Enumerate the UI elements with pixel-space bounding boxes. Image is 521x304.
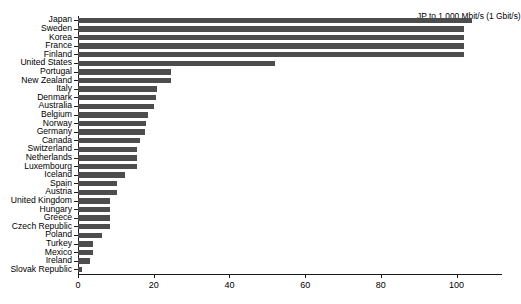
bar [78, 190, 117, 195]
bar-row [78, 179, 502, 188]
y-axis-labels: JapanSwedenKoreaFranceFinlandUnited Stat… [0, 16, 75, 274]
x-tick-mark [457, 274, 458, 278]
bar [78, 35, 464, 40]
bar-row [78, 136, 502, 145]
bar-row [78, 205, 502, 214]
bar-row [78, 188, 502, 197]
x-tick-label: 0 [75, 280, 80, 290]
x-tick-label: 60 [300, 280, 310, 290]
x-tick-mark [154, 274, 155, 278]
bar-row [78, 240, 502, 249]
bar [78, 250, 93, 255]
bar-row [78, 197, 502, 206]
bar [78, 121, 146, 126]
x-tick-label: 40 [224, 280, 234, 290]
x-tick-label: 100 [449, 280, 464, 290]
bar-row [78, 257, 502, 266]
bar [78, 112, 148, 117]
bar-row [78, 42, 502, 51]
bar [78, 95, 156, 100]
y-axis-label: Slovak Republic [10, 265, 72, 274]
x-tick-mark [229, 274, 230, 278]
bar [78, 138, 140, 143]
bar-row [78, 145, 502, 154]
x-tick-label: 20 [149, 280, 159, 290]
bar-row [78, 128, 502, 137]
x-axis-ticks: 020406080100 [78, 274, 502, 302]
bar-row [78, 93, 502, 102]
x-tick-mark [381, 274, 382, 278]
bar [78, 198, 110, 203]
bar [78, 104, 154, 109]
x-tick-mark [305, 274, 306, 278]
bar-row [78, 119, 502, 128]
bar-row [78, 248, 502, 257]
bar [78, 86, 157, 91]
bar [78, 61, 275, 66]
bar [78, 215, 110, 220]
bar-row [78, 33, 502, 42]
bar-row [78, 50, 502, 59]
bar [78, 164, 137, 169]
x-tick-label: 80 [376, 280, 386, 290]
bar-row [78, 222, 502, 231]
bar [78, 181, 117, 186]
bar [78, 69, 171, 74]
bar [78, 241, 93, 246]
bar [78, 147, 137, 152]
bar-row [78, 76, 502, 85]
bar [78, 18, 472, 23]
bar-rows [78, 16, 502, 274]
bar [78, 267, 82, 272]
bar [78, 207, 110, 212]
bar [78, 43, 464, 48]
bar-row [78, 265, 502, 274]
bar-row [78, 162, 502, 171]
bar-row [78, 85, 502, 94]
bar-row [78, 154, 502, 163]
bar [78, 233, 102, 238]
bar-row [78, 25, 502, 34]
bar-row [78, 102, 502, 111]
bar-row [78, 59, 502, 68]
bar-row [78, 231, 502, 240]
bar-row [78, 68, 502, 77]
bar [78, 224, 110, 229]
bar-row [78, 111, 502, 120]
bar [78, 26, 464, 31]
bar [78, 155, 137, 160]
bar-row [78, 214, 502, 223]
bar-row [78, 171, 502, 180]
bar [78, 172, 125, 177]
bar [78, 258, 90, 263]
bar [78, 78, 171, 83]
bar [78, 52, 464, 57]
plot-area [78, 16, 502, 274]
x-tick-mark [78, 274, 79, 278]
bar-row [78, 16, 502, 25]
bar [78, 129, 145, 134]
